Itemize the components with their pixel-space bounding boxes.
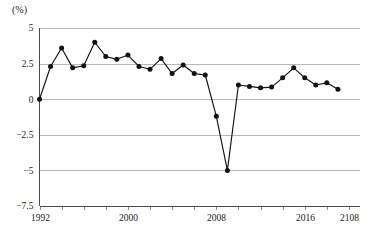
data-point-marker xyxy=(70,65,75,70)
gridlines-group xyxy=(40,29,361,207)
data-point-marker xyxy=(302,75,307,80)
data-point-marker xyxy=(125,53,130,58)
x-tick-label: 2000 xyxy=(119,213,138,223)
line-chart-plot: 52.50−2.5−5−7.5 19922000200820162108 xyxy=(0,0,374,235)
data-point-marker xyxy=(170,71,175,76)
data-point-marker xyxy=(103,54,108,59)
data-point-marker xyxy=(313,82,318,87)
data-point-marker xyxy=(291,65,296,70)
data-point-marker xyxy=(324,80,329,85)
y-tick-label: 0 xyxy=(29,95,34,105)
data-point-marker xyxy=(236,82,241,87)
y-tick-label: 5 xyxy=(29,23,34,33)
data-point-marker xyxy=(37,97,42,102)
data-series-line xyxy=(40,42,338,170)
data-point-marker xyxy=(335,87,340,92)
data-point-marker xyxy=(81,63,86,68)
y-axis-tick-labels: 52.50−2.5−5−7.5 xyxy=(16,23,33,211)
data-point-marker xyxy=(214,114,219,119)
y-tick-label: 2.5 xyxy=(22,59,34,69)
chart-container: (%) 52.50−2.5−5−7.5 19922000200820162108 xyxy=(0,0,374,235)
x-tick-label: 2016 xyxy=(296,213,315,223)
data-point-marker xyxy=(159,56,164,61)
data-point-marker xyxy=(247,84,252,89)
x-tick-label: 2008 xyxy=(207,213,226,223)
data-point-marker xyxy=(148,67,153,72)
x-tick-label: 1992 xyxy=(31,213,50,223)
data-point-marker xyxy=(181,63,186,68)
data-point-marker xyxy=(92,40,97,45)
data-point-marker xyxy=(269,85,274,90)
data-point-marker xyxy=(48,64,53,69)
y-tick-label: −5 xyxy=(23,166,33,176)
data-point-marker xyxy=(225,168,230,173)
data-point-marker xyxy=(136,64,141,69)
data-point-marker xyxy=(203,72,208,77)
data-point-marker xyxy=(280,75,285,80)
x-tick-label: 2108 xyxy=(340,213,359,223)
data-point-marker xyxy=(59,45,64,50)
y-tick-label: −2.5 xyxy=(16,130,33,140)
data-point-markers xyxy=(37,40,340,173)
y-tick-label: −7.5 xyxy=(16,201,33,211)
data-point-marker xyxy=(192,71,197,76)
data-point-marker xyxy=(258,85,263,90)
x-axis-tick-labels: 19922000200820162108 xyxy=(31,213,359,223)
data-point-marker xyxy=(114,57,119,62)
